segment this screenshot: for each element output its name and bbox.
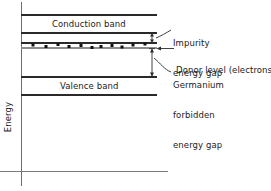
impurity-energy-gap-arrow — [149, 34, 155, 43]
electron-dot — [68, 45, 71, 48]
annotation-line: energy gap — [173, 140, 224, 150]
electron-dot — [132, 44, 135, 47]
electron-dot — [91, 46, 94, 49]
donor-level-leader — [157, 47, 175, 51]
electron-dot — [57, 43, 60, 46]
germanium-forbidden-energy-gap-arrow — [149, 49, 155, 77]
conduction-band-label: Conduction band — [52, 19, 126, 29]
energy-band-diagram-figure: Conduction band Valence band Energy Impu… — [0, 0, 271, 191]
electron-dot — [45, 45, 48, 48]
electron-dot — [80, 44, 83, 47]
annotation-germanium-forbidden-energy-gap: Germanium forbidden energy gap — [173, 60, 224, 170]
diagram-canvas — [0, 0, 271, 191]
electron-dot — [100, 45, 103, 48]
y-axis-label: Energy — [3, 96, 13, 138]
annotation-line: Germanium — [173, 80, 224, 90]
germanium-forbidden-energy-gap-leader — [154, 58, 171, 72]
electron-dot — [111, 44, 114, 47]
impurity-energy-gap-leader — [156, 30, 171, 38]
annotation-line: forbidden — [173, 110, 224, 120]
electron-dot — [121, 46, 124, 49]
valence-band-label: Valence band — [60, 81, 119, 91]
electron-dot — [144, 43, 147, 46]
electron-dot — [32, 44, 35, 47]
